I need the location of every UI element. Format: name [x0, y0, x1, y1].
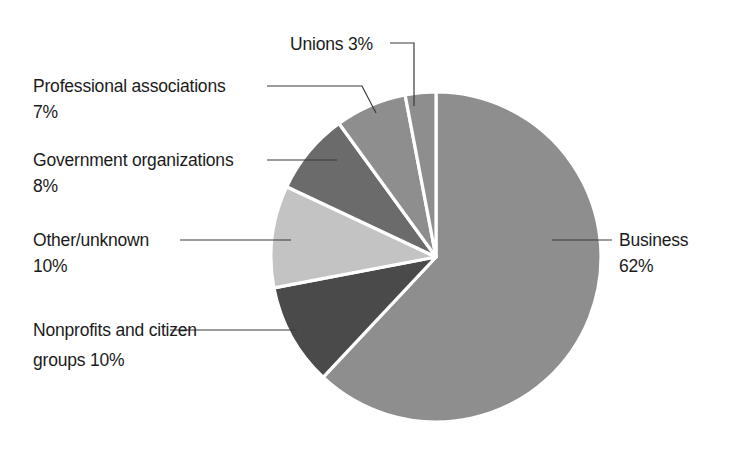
label-professional-associations-line2: 7% [33, 102, 58, 122]
label-nonprofits-and-citizen-groups-line1: Nonprofits and citizen [33, 320, 197, 340]
label-government-organizations-line1: Government organizations [33, 150, 234, 170]
label-other-unknown-line1: Other/unknown [33, 230, 149, 250]
label-nonprofits-and-citizen-groups-line2: groups 10% [33, 350, 124, 370]
pie-slices [271, 92, 601, 422]
pie-chart-page: Unions 3% Professional associations 7% G… [0, 0, 740, 454]
label-professional-associations-line1: Professional associations [33, 76, 226, 96]
label-other-unknown-line2: 10% [33, 256, 67, 276]
label-business-line1: Business [619, 230, 689, 250]
pie-chart-svg: Unions 3% Professional associations 7% G… [0, 0, 740, 454]
label-business-line2: 62% [619, 256, 653, 276]
label-unions-line1: Unions 3% [290, 34, 373, 54]
label-government-organizations-line2: 8% [33, 176, 58, 196]
